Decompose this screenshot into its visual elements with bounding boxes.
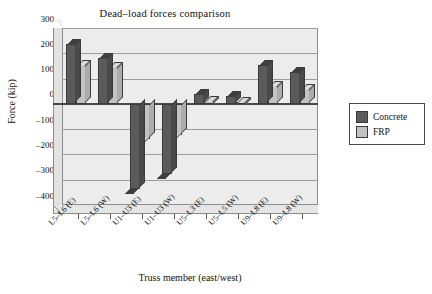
bar-side-face (181, 99, 187, 134)
bar-concrete[interactable] (66, 44, 76, 103)
plot-back-wall (62, 28, 318, 205)
legend-label-concrete: Concrete (373, 112, 407, 122)
chart-figure: Dead–load forces comparison Force (kip) … (0, 0, 432, 294)
legend-swatch-concrete-icon (356, 111, 368, 123)
plot-3d-top-bevel (53, 19, 62, 28)
legend-item-concrete[interactable]: Concrete (356, 109, 419, 124)
y-tick-label: –300 (0, 166, 54, 175)
y-tick-label: –100 (0, 116, 54, 125)
bar-side-face (139, 99, 145, 188)
x-tick-mark (302, 214, 303, 219)
x-tick-mark (238, 214, 239, 219)
chart-legend: Concrete FRP (349, 103, 425, 145)
bar-concrete[interactable] (162, 104, 172, 174)
grid-line (62, 180, 318, 181)
bar-concrete[interactable] (290, 72, 300, 104)
bar-concrete[interactable] (130, 104, 140, 189)
x-tick-mark (206, 214, 207, 219)
grid-line (62, 154, 318, 155)
grid-line (62, 129, 318, 130)
bar-side-face (171, 99, 177, 173)
bar-concrete[interactable] (258, 65, 268, 103)
x-tick-mark (110, 214, 111, 219)
bar-side-face (117, 62, 123, 103)
bar-side-face (267, 60, 273, 102)
bar-side-face (85, 60, 91, 103)
y-tick-label: 0 (0, 90, 54, 99)
bar-side-face (75, 39, 81, 102)
plot-3d-left-panel (53, 28, 62, 205)
y-tick-label: –400 (0, 192, 54, 201)
y-tick-label: –200 (0, 141, 54, 150)
y-tick-label: 300 (0, 15, 54, 24)
plot-area (62, 28, 318, 205)
x-tick-mark (174, 214, 175, 219)
x-tick-mark (142, 214, 143, 219)
y-tick-label: 100 (0, 65, 54, 74)
x-tick-mark (78, 214, 79, 219)
bar-side-face (299, 67, 305, 103)
bar-frp[interactable] (236, 102, 246, 104)
legend-swatch-frp-icon (356, 126, 368, 138)
bar-concrete[interactable] (194, 94, 204, 104)
grid-line (62, 28, 318, 29)
bar-side-face (149, 99, 155, 138)
y-tick-label: 200 (0, 40, 54, 49)
bar-side-face (107, 53, 113, 103)
legend-label-frp: FRP (373, 127, 390, 137)
bar-concrete[interactable] (98, 58, 108, 104)
x-axis-label: Truss member (east/west) (62, 272, 318, 283)
legend-item-frp[interactable]: FRP (356, 124, 419, 139)
bar-concrete[interactable] (226, 96, 236, 104)
grid-line (62, 53, 318, 54)
bar-frp[interactable] (204, 101, 214, 104)
x-tick-mark (270, 214, 271, 219)
